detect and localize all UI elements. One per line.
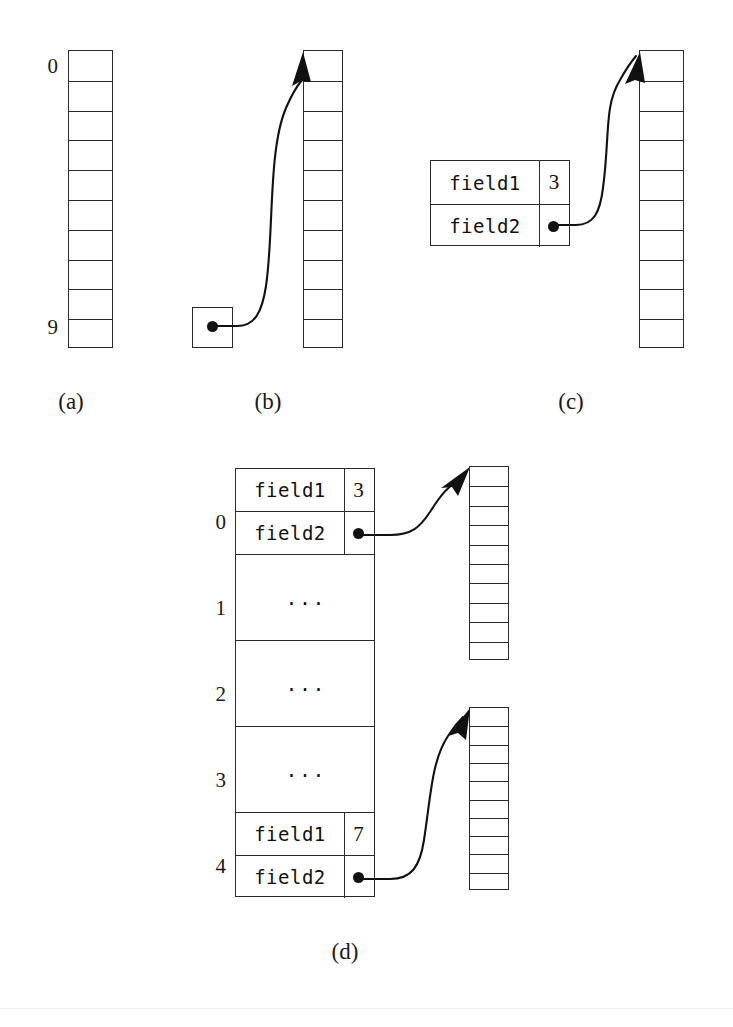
- panel-a-array-divider: [69, 319, 112, 320]
- caption-c: (c): [528, 390, 614, 413]
- panel-a-array-divider: [69, 230, 112, 231]
- panel-d-target-array-top-divider: [470, 564, 508, 565]
- panel-d-slot0-field1-value: 3: [344, 469, 373, 511]
- panel-d-slot4-field1-value: 7: [344, 813, 373, 855]
- panel-c-record-row-field1: field1 3: [431, 161, 569, 204]
- panel-d-target-array-bottom-divider: [470, 726, 508, 727]
- panel-b-array-divider: [304, 111, 342, 112]
- panel-d-index-3: 3: [188, 770, 226, 791]
- panel-c-row2-separator: [539, 205, 540, 247]
- panel-d-target-array-top-divider: [470, 603, 508, 604]
- panel-d-target-array-bottom-divider: [470, 745, 508, 746]
- panel-a-array-divider: [69, 81, 112, 82]
- panel-c-array-divider: [640, 200, 683, 201]
- panel-d-target-array-top-divider: [470, 642, 508, 643]
- panel-c-record: field1 3 field2: [430, 160, 570, 246]
- panel-d-slot0-field2-name: field2: [236, 512, 344, 554]
- panel-d-target-array-bottom-divider: [470, 836, 508, 837]
- panel-b-array-divider: [304, 289, 342, 290]
- panel-d-index-0: 0: [188, 512, 226, 533]
- panel-b-array-divider: [304, 230, 342, 231]
- panel-d-target-array-top: [469, 466, 509, 660]
- panel-b-array-divider: [304, 140, 342, 141]
- panel-d-target-array-top-divider: [470, 486, 508, 487]
- panel-d-target-array-top-divider: [470, 525, 508, 526]
- panel-d-target-array-top-divider: [470, 622, 508, 623]
- panel-c-record-row-field2: field2: [431, 204, 569, 247]
- panel-d-slot4-field2-pointer-dot: [353, 872, 364, 883]
- panel-c-array-divider: [640, 289, 683, 290]
- panel-b-array-divider: [304, 200, 342, 201]
- page-bottom-edge: [0, 1008, 733, 1009]
- panel-b-array-divider: [304, 319, 342, 320]
- panel-d-slot-3: ...: [236, 727, 376, 812]
- panel-d-slot3-ellipsis: ...: [286, 759, 326, 781]
- panel-d-target-array-bottom-divider: [470, 818, 508, 819]
- panel-d-target-array-bottom-divider: [470, 781, 508, 782]
- caption-a: (a): [28, 390, 114, 413]
- panel-a-array-divider: [69, 111, 112, 112]
- panel-c-array-divider: [640, 319, 683, 320]
- panel-a-array: [68, 50, 113, 348]
- panel-d-slot0-row2-separator: [344, 512, 345, 554]
- panel-a-index-bottom: 9: [20, 317, 58, 338]
- panel-d-pointer-arrow-bottom: [363, 708, 470, 879]
- panel-d-index-4: 4: [188, 856, 226, 877]
- panel-a-index-top: 0: [20, 56, 58, 77]
- panel-d-slot4-field2-name: field2: [236, 856, 344, 898]
- panel-c-field2-pointer-dot: [548, 221, 559, 232]
- panel-d-target-array-bottom-divider: [470, 854, 508, 855]
- panel-b-pointer-arrow: [213, 52, 311, 326]
- panel-c-array-divider: [640, 140, 683, 141]
- panel-d-slot-0: field1 3 field2: [236, 469, 374, 554]
- panel-c-array: [639, 50, 684, 348]
- panel-d-slot-1: ...: [236, 555, 376, 640]
- panel-c-array-divider: [640, 230, 683, 231]
- panel-c-array-divider: [640, 260, 683, 261]
- panel-c-array-divider: [640, 170, 683, 171]
- panel-a-array-divider: [69, 200, 112, 201]
- panel-b-pointer-box: [192, 307, 233, 348]
- panel-c-field1-name: field1: [431, 161, 539, 204]
- panel-d-array-of-structs: field1 3 field2 ... ... ... field1: [235, 468, 375, 897]
- panel-d-target-array-bottom-divider: [470, 873, 508, 874]
- panel-d-slot-4: field1 7 field2: [236, 813, 374, 898]
- panel-c-field2-name: field2: [431, 205, 539, 247]
- panel-d-index-2: 2: [188, 684, 226, 705]
- panel-b-array-divider: [304, 81, 342, 82]
- panel-d-index-1: 1: [188, 598, 226, 619]
- caption-b: (b): [225, 390, 311, 413]
- panel-c-array-divider: [640, 81, 683, 82]
- panel-d-slot2-ellipsis: ...: [286, 673, 326, 695]
- panel-c-array-divider: [640, 111, 683, 112]
- panel-b-pointer-dot: [207, 321, 218, 332]
- panel-a-array-divider: [69, 170, 112, 171]
- panel-c-field1-value: 3: [539, 161, 569, 204]
- panel-d-target-array-bottom: [469, 707, 509, 890]
- panel-d-target-array-bottom-divider: [470, 800, 508, 801]
- panel-b-array: [303, 50, 343, 348]
- panel-d-slot0-field1-name: field1: [236, 469, 344, 511]
- panel-d-slot1-ellipsis: ...: [286, 587, 326, 609]
- panel-b-array-divider: [304, 170, 342, 171]
- panel-d-target-array-bottom-divider: [470, 763, 508, 764]
- panel-d-slot-2: ...: [236, 641, 376, 726]
- figure-root: 0 9 field1 3 field2 (a) (b) (c): [0, 0, 733, 1027]
- panel-d-slot0-field2-pointer-dot: [353, 528, 364, 539]
- panel-d-pointer-arrow-top: [363, 467, 470, 535]
- panel-a-array-divider: [69, 289, 112, 290]
- caption-d: (d): [302, 940, 388, 963]
- panel-d-target-array-top-divider: [470, 506, 508, 507]
- panel-d-target-array-top-divider: [470, 583, 508, 584]
- panel-d-slot4-field1-name: field1: [236, 813, 344, 855]
- panel-b-array-divider: [304, 260, 342, 261]
- panel-d-slot4-row2-separator: [344, 856, 345, 898]
- panel-a-array-divider: [69, 140, 112, 141]
- panel-a-array-divider: [69, 260, 112, 261]
- panel-d-target-array-top-divider: [470, 545, 508, 546]
